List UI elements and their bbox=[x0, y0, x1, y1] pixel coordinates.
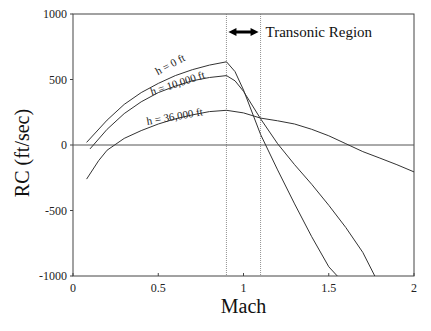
x-tick-label: 0.5 bbox=[151, 281, 166, 295]
arrow-head-left-icon bbox=[228, 28, 236, 36]
y-tick-label: 0 bbox=[61, 138, 67, 152]
x-axis-title: Mach bbox=[221, 295, 267, 317]
y-tick-label: 500 bbox=[49, 73, 67, 87]
y-tick-label: 1000 bbox=[43, 7, 67, 21]
curve-h-10-000-ft bbox=[90, 76, 375, 276]
curve-label: h = 36,000 ft bbox=[146, 105, 204, 127]
transonic-region-label: Transonic Region bbox=[266, 24, 373, 40]
rate-of-climb-chart: 10005000-500-100000.511.52MachRC (ft/sec… bbox=[0, 0, 431, 331]
y-axis-title: RC (ft/sec) bbox=[11, 109, 34, 197]
y-tick-label: -500 bbox=[45, 204, 67, 218]
y-tick-label: -1000 bbox=[39, 269, 67, 283]
x-tick-label: 2 bbox=[411, 281, 417, 295]
arrow-head-right-icon bbox=[251, 28, 259, 36]
x-tick-label: 1.5 bbox=[321, 281, 336, 295]
curve-h-0-ft bbox=[87, 62, 338, 276]
x-tick-label: 1 bbox=[241, 281, 247, 295]
x-tick-label: 0 bbox=[70, 281, 76, 295]
chart-canvas: 10005000-500-100000.511.52MachRC (ft/sec… bbox=[0, 0, 431, 331]
